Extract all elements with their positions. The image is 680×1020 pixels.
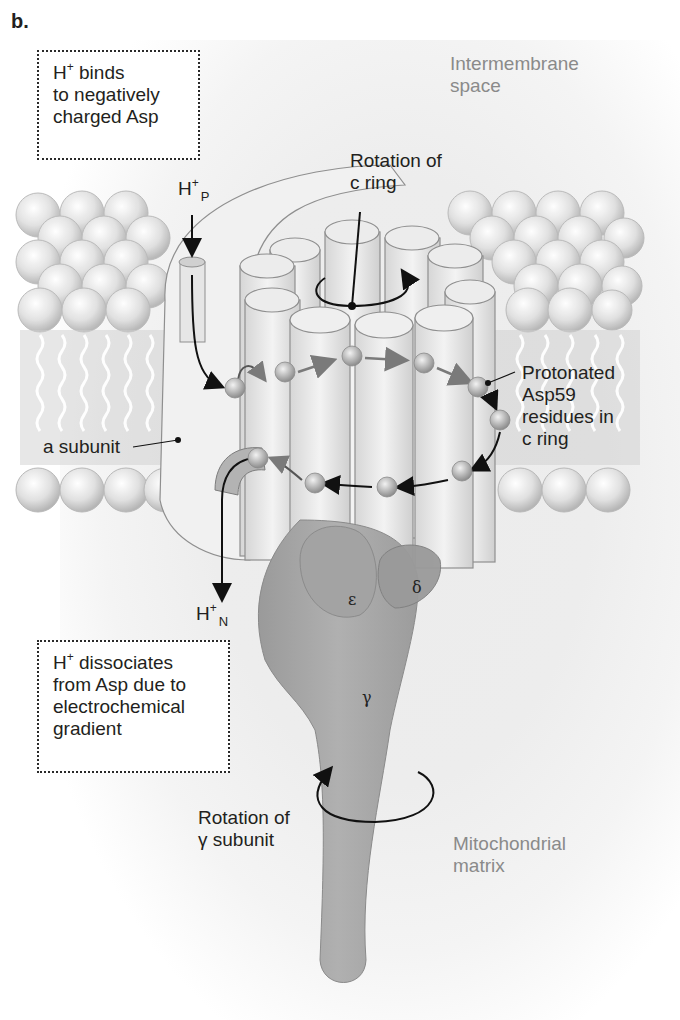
panel-letter: b. [11,10,29,33]
label-gamma: γ [362,688,372,707]
callout-binds: H+ binds to negatively charged Asp [37,50,200,160]
label-protonated-asp59: Protonated Asp59 residues in c ring [522,362,615,450]
delta-subunit-shape [378,545,441,608]
label-intermembrane-space: Intermembrane space [450,53,579,97]
label-rotation-gamma: Rotation of γ subunit [198,807,290,851]
callout-dissociates: H+ dissociates from Asp due to electroch… [37,640,230,773]
label-rotation-c-ring: Rotation of c ring [350,150,442,194]
c-ring [240,220,495,575]
label-a-subunit: a subunit [43,436,120,458]
label-h-plus-n: H+N [196,603,228,625]
label-delta: δ [412,578,422,597]
label-h-plus-p: H+P [178,178,209,200]
label-mitochondrial-matrix: Mitochondrial matrix [453,833,566,877]
label-epsilon: ε [348,590,356,609]
